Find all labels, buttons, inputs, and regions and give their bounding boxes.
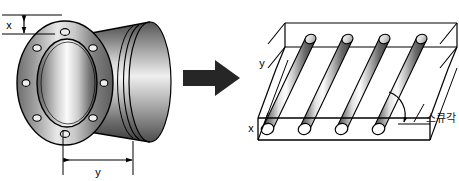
bolt-hole: [89, 45, 97, 52]
bolt-hole: [60, 131, 69, 138]
bolt-hole: [22, 80, 30, 87]
sleeve-right-end-cap: [129, 22, 171, 142]
bolt-hole: [33, 115, 41, 122]
dim-y-label: y: [95, 166, 101, 178]
technical-diagram-figure: x y: [0, 0, 459, 181]
flange-bore-opening: [37, 39, 97, 127]
skew-angle-label: 스큐각: [426, 112, 456, 125]
bolt-hole: [89, 115, 97, 122]
diagram-canvas: x y: [0, 0, 459, 181]
axis-label-y: y: [259, 57, 265, 69]
flange-disc: [17, 21, 113, 145]
dim-x-label: x: [6, 19, 12, 31]
bolt-hole: [100, 80, 108, 87]
axis-label-x: x: [248, 122, 254, 134]
bolt-hole: [33, 45, 41, 52]
bolt-hole: [60, 29, 69, 36]
